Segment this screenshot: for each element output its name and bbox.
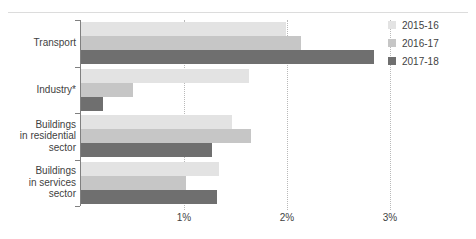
legend-swatch-icon bbox=[388, 57, 396, 65]
top-divider bbox=[8, 12, 468, 13]
category-label: Buildingsin residentialsector bbox=[2, 119, 76, 154]
legend-label: 2015-16 bbox=[402, 20, 439, 31]
category-label-line: Industry* bbox=[2, 84, 76, 96]
legend: 2015-162016-172017-18 bbox=[388, 16, 470, 70]
bar bbox=[81, 162, 219, 176]
legend-label: 2016-17 bbox=[402, 38, 439, 49]
legend-item[interactable]: 2016-17 bbox=[388, 34, 470, 52]
category-label: Transport bbox=[2, 37, 76, 49]
bar bbox=[81, 50, 374, 64]
legend-item[interactable]: 2017-18 bbox=[388, 52, 470, 70]
category-label-line: sector bbox=[2, 188, 76, 200]
x-tick-label: 3% bbox=[370, 212, 410, 223]
legend-label: 2017-18 bbox=[402, 56, 439, 67]
bar bbox=[81, 22, 286, 36]
bar bbox=[81, 69, 249, 83]
category-label-line: Buildings bbox=[2, 165, 76, 177]
category-label: Buildingsin servicessector bbox=[2, 165, 76, 200]
category-label-line: Transport bbox=[2, 37, 76, 49]
legend-swatch-icon bbox=[388, 21, 396, 29]
category-label-line: in residential bbox=[2, 130, 76, 142]
bar bbox=[81, 97, 103, 111]
category-label-line: in services bbox=[2, 177, 76, 189]
bar bbox=[81, 143, 212, 157]
bar bbox=[81, 36, 301, 50]
category-label-line: Buildings bbox=[2, 119, 76, 131]
x-tick-label: 2% bbox=[267, 212, 307, 223]
category-label: Industry* bbox=[2, 84, 76, 96]
legend-item[interactable]: 2015-16 bbox=[388, 16, 470, 34]
bar bbox=[81, 83, 133, 97]
bar bbox=[81, 190, 217, 204]
bar bbox=[81, 176, 186, 190]
legend-swatch-icon bbox=[388, 39, 396, 47]
plot-area bbox=[81, 20, 390, 206]
category-labels: TransportIndustry*Buildingsin residentia… bbox=[0, 0, 76, 239]
bar-chart: TransportIndustry*Buildingsin residentia… bbox=[0, 0, 476, 239]
x-tick-label: 1% bbox=[164, 212, 204, 223]
category-label-line: sector bbox=[2, 142, 76, 154]
bar bbox=[81, 129, 251, 143]
bar bbox=[81, 115, 232, 129]
